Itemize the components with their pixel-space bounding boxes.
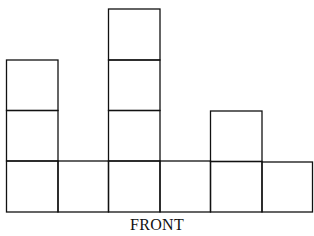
cube xyxy=(109,9,161,60)
cube xyxy=(211,111,263,162)
cube xyxy=(211,162,263,213)
cube xyxy=(262,162,313,212)
cube xyxy=(7,111,59,162)
cube xyxy=(7,60,59,111)
cube xyxy=(109,60,161,111)
front-label: FRONT xyxy=(0,216,314,234)
cube xyxy=(7,161,59,212)
cube xyxy=(160,161,211,212)
cube xyxy=(109,111,161,162)
cube xyxy=(109,161,161,212)
cube xyxy=(58,161,109,212)
block-front-view xyxy=(0,0,314,236)
